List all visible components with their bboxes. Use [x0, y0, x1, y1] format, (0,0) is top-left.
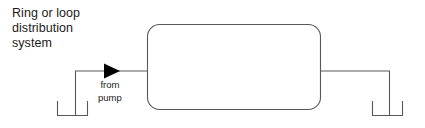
diagram-title-caption: Ring or loop distribution system [12, 6, 80, 51]
rounded-rectangle-loop-main [148, 25, 321, 110]
outlet-pipe-to-service [321, 71, 390, 116]
from-pump-label: from pump [98, 79, 122, 104]
diagram-figure: Ring or loop distribution system from pu… [0, 0, 425, 128]
left-branch-bracket [58, 101, 88, 116]
flow-direction-arrow-icon [104, 64, 120, 79]
right-branch-bracket [373, 101, 403, 116]
